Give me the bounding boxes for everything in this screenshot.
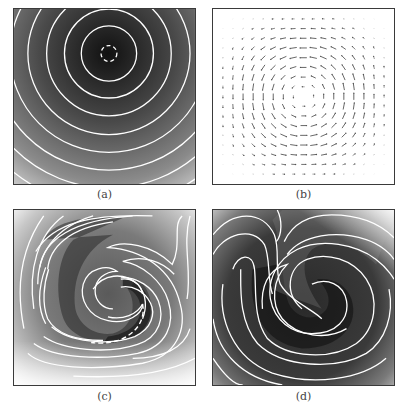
arrow-head-icon [251,69,252,70]
arrow-head-icon [242,59,243,60]
arrow-head-icon [312,18,313,19]
arrow-head-icon [306,135,307,136]
vector-arrow [252,74,254,80]
arrow-head-icon [332,18,333,19]
arrow-head-icon [262,89,263,90]
arrow-head-icon [305,115,306,116]
arrow-head-icon [354,163,355,164]
arrow-head-icon [233,127,234,128]
vector-arrow [253,83,254,90]
arrow-head-icon [383,95,384,96]
vector-arrow [342,144,346,147]
vector-arrow [272,103,274,109]
vector-arrow [331,123,335,127]
arrow-head-icon [344,102,345,103]
arrow-head-icon [251,28,252,29]
arrow-head-icon [364,103,365,104]
vector-arrow [242,123,243,127]
vector-arrow [331,144,336,146]
vector-arrow [271,56,276,59]
arrow-head-icon [242,69,243,70]
vector-arrow [252,123,254,128]
vector-arrow [323,104,325,108]
arrow-head-icon [354,153,355,154]
arrow-head-icon [312,85,313,86]
arrow-head-icon [254,146,255,147]
vector-arrow [291,67,297,69]
vector-arrow [233,38,234,39]
vector-arrow [321,154,326,155]
arrow-head-icon [310,56,311,57]
vector-arrow [290,57,297,58]
arrow-head-icon [222,97,223,98]
vector-arrow [353,123,355,128]
arrow-head-icon [280,48,281,49]
arrow-head-icon [364,123,365,124]
arrow-head-icon [242,79,243,80]
vector-arrow [290,145,297,146]
arrow-head-icon [232,88,233,89]
arrow-head-icon [320,65,321,66]
arrow-head-icon [344,163,345,164]
vector-arrow [282,85,284,89]
panel-c-label: (c) [13,390,196,403]
arrow-head-icon [232,98,233,99]
arrow-head-icon [373,56,374,57]
arrow-head-icon [352,73,353,74]
arrow-head-icon [242,89,243,90]
arrow-head-icon [243,118,244,119]
arrow-head-icon [274,118,275,119]
arrow-head-icon [264,127,265,128]
arrow-head-icon [316,124,317,125]
arrow-head-icon [291,77,292,78]
arrow-head-icon [345,153,346,154]
arrow-head-icon [363,37,364,38]
arrow-head-icon [343,92,344,93]
vector-arrow [363,164,364,165]
arrow-head-icon [383,104,384,105]
arrow-head-icon [290,68,291,69]
vector-arrow [331,47,336,49]
vector-arrow [261,144,265,147]
arrow-head-icon [242,49,243,50]
vector-arrow [252,56,255,60]
vector-arrow [374,38,375,39]
arrow-head-icon [326,133,327,134]
arrow-head-icon [251,79,252,80]
arrow-head-icon [302,86,303,87]
arrow-head-icon [353,92,354,93]
arrow-head-icon [345,143,346,144]
arrow-head-icon [253,118,254,119]
arrow-head-icon [335,153,336,154]
arrow-head-icon [373,94,374,95]
vector-arrow [263,83,264,90]
arrow-head-icon [289,58,290,59]
arrow-head-icon [311,75,312,76]
arrow-head-icon [300,67,301,68]
arrow-head-icon [286,145,287,146]
vector-arrow [311,115,315,117]
vector-arrow [331,65,335,69]
vector-arrow [363,74,364,79]
vector-arrow [342,123,345,128]
arrow-head-icon [280,58,281,59]
arrow-head-icon [292,87,293,88]
arrow-head-icon [325,113,326,114]
arrow-head-icon [272,89,273,90]
vector-arrow [352,56,355,60]
arrow-head-icon [295,164,296,165]
panel-b-vector-field [212,8,395,185]
arrow-head-icon [363,74,364,75]
arrow-head-icon [334,173,335,174]
arrow-head-icon [316,154,317,155]
arrow-head-icon [253,109,254,110]
vector-arrow [321,56,327,59]
vector-arrow [342,56,346,60]
vector-arrow [261,123,264,128]
arrow-head-icon [332,83,333,84]
arrow-head-icon [306,144,307,145]
vector-arrow [311,76,315,78]
vector-arrow [242,164,243,165]
arrow-head-icon [275,155,276,156]
vector-arrow [374,154,375,155]
